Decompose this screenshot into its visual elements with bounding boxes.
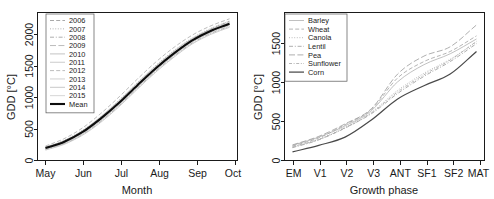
right-xtick-mat: MAT (468, 167, 490, 179)
chart-panel-right: 0 500 1000 1500 GDD [°C] EM V1 V2 V3 (247, 0, 494, 199)
left-ytick-0: 0 (23, 157, 35, 163)
left-y-axis: 0 500 1000 1500 2000 GDD [°C] (5, 13, 38, 164)
left-xtick-jul: Jul (115, 167, 128, 179)
left-ytick-2000: 2000 (23, 23, 35, 47)
chart-panel-left: 0 500 1000 1500 2000 GDD [°C] May Jun Ju… (0, 0, 247, 199)
right-ytick-1000: 1000 (270, 71, 282, 95)
right-xtick-v3: V3 (367, 167, 380, 179)
legend-label-mean: Mean (69, 100, 88, 109)
left-xtick-oct: Oct (225, 167, 241, 179)
right-ytick-1500: 1500 (270, 32, 282, 56)
left-xtick-aug: Aug (150, 167, 169, 179)
right-xtick-sf1: SF1 (417, 167, 436, 179)
right-ytick-0: 0 (270, 157, 282, 163)
left-xtick-sep: Sep (188, 167, 207, 179)
right-xtick-v1: V1 (314, 167, 327, 179)
left-ytick-500: 500 (23, 120, 35, 138)
left-ytick-1500: 1500 (23, 54, 35, 78)
left-x-axis: May Jun Jul Aug Sep Oct Month (36, 161, 242, 197)
right-xtick-v2: V2 (340, 167, 353, 179)
left-chart-svg: 0 500 1000 1500 2000 GDD [°C] May Jun Ju… (0, 0, 247, 199)
left-xtick-jun: Jun (75, 167, 92, 179)
right-chart-svg: 0 500 1000 1500 GDD [°C] EM V1 V2 V3 (247, 0, 494, 199)
right-legend: BarleyWheatCanolaLentilPeaSunflowerCorn (285, 14, 347, 81)
figure-container: 0 500 1000 1500 2000 GDD [°C] May Jun Ju… (0, 0, 494, 199)
right-xtick-sf2: SF2 (444, 167, 463, 179)
right-y-axis-title: GDD [°C] (252, 74, 264, 120)
left-y-axis-title: GDD [°C] (5, 74, 17, 120)
right-y-axis: 0 500 1000 1500 GDD [°C] (252, 13, 285, 164)
right-x-axis: EM V1 V2 V3 ANT SF1 SF2 MAT Growth phase (285, 161, 490, 197)
right-ytick-500: 500 (270, 113, 282, 131)
right-xtick-ant: ANT (390, 167, 412, 179)
left-x-axis-title: Month (122, 184, 153, 196)
left-ytick-1000: 1000 (23, 86, 35, 110)
left-legend: 2006200720082009201020112012201320142015… (46, 14, 94, 113)
right-x-axis-title: Growth phase (350, 184, 418, 196)
left-xtick-may: May (36, 167, 57, 179)
legend-label-corn: Corn (308, 68, 324, 77)
right-xtick-em: EM (286, 167, 302, 179)
